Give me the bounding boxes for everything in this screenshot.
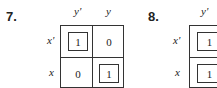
karnaugh-map-7: 1 0 0 1 [60, 25, 124, 88]
cell-x-y-prime: 0 [68, 64, 88, 83]
row-label-x-prime: x' [47, 34, 54, 46]
column-label-y-prime: y' [74, 5, 81, 17]
karnaugh-map-8: 1 1 [189, 25, 217, 88]
cell-x-prime-y-prime: 1 [68, 32, 88, 51]
column-label-y-prime: y' [201, 5, 208, 17]
row-label-x: x [49, 66, 54, 78]
cell-x-prime-y: 0 [99, 32, 119, 51]
row-label-x-prime: x' [173, 34, 180, 46]
cell-x-y-prime: 1 [197, 64, 217, 83]
problem-8-number: 8. [148, 9, 159, 24]
cell-x-prime-y-prime: 1 [197, 32, 217, 51]
row-label-x: x [175, 66, 180, 78]
cell-x-y: 1 [99, 64, 119, 83]
column-label-y: y [106, 5, 111, 17]
problem-7-number: 7. [6, 9, 17, 24]
